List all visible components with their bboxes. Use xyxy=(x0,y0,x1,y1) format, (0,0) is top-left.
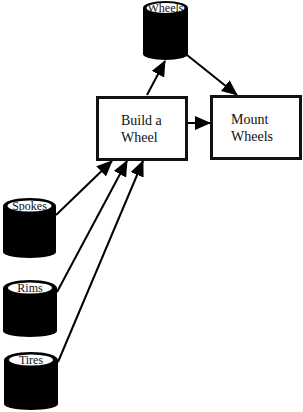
process-build-label: Build a Wheel xyxy=(121,112,162,146)
store-rims-label: Rims xyxy=(3,281,57,295)
process-build-a-wheel: Build a Wheel xyxy=(96,96,188,161)
flow-wheels-to-mount xyxy=(187,55,237,95)
store-spokes-label: Spokes xyxy=(3,199,56,213)
process-mount-label: Mount Wheels xyxy=(231,111,273,145)
process-mount-wheels: Mount Wheels xyxy=(210,95,302,160)
flow-tires-to-build xyxy=(58,161,143,362)
store-wheels-label: Wheels xyxy=(143,1,188,15)
store-tires-label: Tires xyxy=(4,353,58,367)
flow-build-to-wheels xyxy=(147,61,165,95)
